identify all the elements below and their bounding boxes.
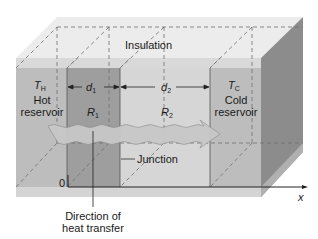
x-axis-label: x <box>298 191 304 203</box>
direction-of-heat-transfer-label: Direction of heat transfer <box>58 210 128 234</box>
top-face <box>16 17 303 58</box>
cold-reservoir-label: Cold reservoir <box>212 94 260 118</box>
bottom-insulation-strip <box>16 187 261 197</box>
hot-reservoir-label: Hot reservoir <box>19 94 65 118</box>
hot-temperature-label: TH <box>34 79 46 95</box>
cold-temperature-label: TC <box>228 79 240 95</box>
insulation-label: Insulation <box>125 39 172 51</box>
heat-conduction-diagram: Insulation TH Hot reservoir d1 R1 d2 R2 … <box>0 0 318 239</box>
r2-label: R2 <box>161 106 173 122</box>
d1-label: d1 <box>86 81 96 97</box>
x-axis-arrowhead <box>302 185 308 189</box>
junction-label: Junction <box>137 153 178 165</box>
front-insulation-band <box>16 58 261 68</box>
d2-label: d2 <box>161 81 171 97</box>
r1-label: R1 <box>87 106 99 122</box>
diagram-graphic <box>0 0 318 239</box>
origin-label: 0 <box>59 177 65 189</box>
